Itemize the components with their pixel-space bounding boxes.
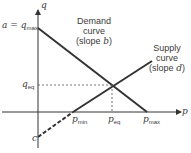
p-min-label: pmin (72, 114, 87, 127)
x-axis-label: p (182, 106, 188, 116)
p-max-label: pmax (143, 114, 160, 127)
q-eq-label: qeq (22, 79, 34, 92)
y-axis-label: q (41, 0, 47, 10)
y-intercept-label: a = qmax (2, 20, 38, 33)
supply-curve (73, 61, 152, 112)
demand-curve-label: Demand curve (slope b) (66, 16, 122, 46)
supply-curve-extension (38, 112, 73, 137)
c-label: c (32, 133, 37, 143)
supply-curve-label: Supply curve (slope d) (143, 43, 191, 73)
p-eq-label: peq (108, 114, 120, 127)
supply-demand-diagram: q p a = qmax qeq c pmin peq pmax Demand … (0, 0, 191, 153)
